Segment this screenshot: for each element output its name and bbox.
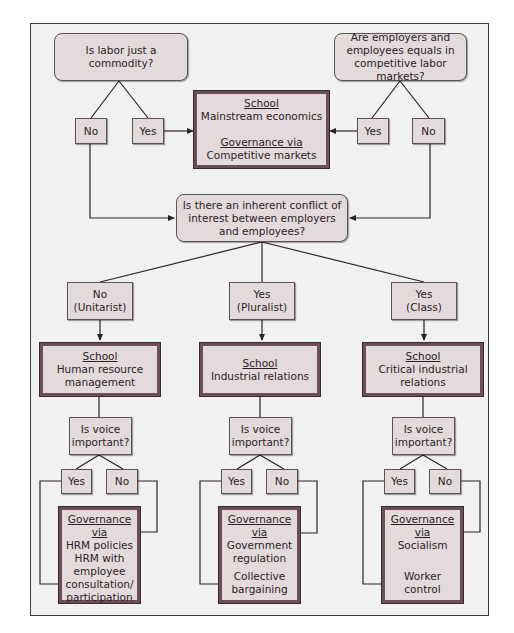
school-human-resource-management: School Human resource management xyxy=(40,343,160,396)
answer-label: Yes xyxy=(254,288,271,301)
governance-with-voice: Collective bargaining xyxy=(230,570,290,596)
school-label: School xyxy=(244,97,279,110)
commodity-yes-option: Yes xyxy=(132,118,164,144)
commodity-no-option: No xyxy=(75,118,107,144)
option-label: No xyxy=(84,125,98,138)
voice-question-critical: Is voice important? xyxy=(392,417,455,455)
voice-yes-critical: Yes xyxy=(384,469,415,494)
governance-label: Governance via xyxy=(220,136,302,149)
governance-no-voice: HRM policies xyxy=(66,539,133,552)
voice-question-hrm: Is voice important? xyxy=(69,417,132,455)
school-industrial-relations: School Industrial relations xyxy=(200,343,320,396)
answer-label: No xyxy=(93,288,107,301)
school-critical-industrial-relations: School Critical industrial relations xyxy=(363,343,483,396)
option-label: No xyxy=(421,125,435,138)
school-name: Human resource management xyxy=(43,363,157,389)
mainstream-economics-school: School Mainstream economics Governance v… xyxy=(194,91,329,168)
labor-commodity-question: Is labor just a commodity? xyxy=(54,33,188,81)
school-label: School xyxy=(406,350,441,363)
question-text: Are employers and employees equals in co… xyxy=(335,31,466,83)
inherent-conflict-question: Is there an inherent conflict of interes… xyxy=(176,194,348,242)
voice-no-critical: No xyxy=(429,469,461,494)
school-name: Industrial relations xyxy=(211,370,309,383)
option-label: Yes xyxy=(140,125,157,138)
governance-with-voice: Worker control xyxy=(398,570,448,596)
governance-label: Governance via xyxy=(222,513,297,539)
school-name: Critical industrial relations xyxy=(366,363,480,389)
governance-mode: Competitive markets xyxy=(207,149,317,162)
answer-unitarist: No (Unitarist) xyxy=(67,282,133,320)
governance-label: Governance via xyxy=(62,513,137,539)
voice-yes-hrm: Yes xyxy=(61,469,92,494)
school-name: Mainstream economics xyxy=(201,110,322,123)
answer-label: Yes xyxy=(416,288,433,301)
question-text: Is labor just a commodity? xyxy=(55,44,187,70)
governance-no-voice: Government regulation xyxy=(225,539,295,565)
governance-critical: Governance via Socialism Worker control xyxy=(382,507,463,603)
question-text: Is voice important? xyxy=(230,423,291,449)
option-label: No xyxy=(275,475,289,488)
answer-pluralist: Yes (Pluralist) xyxy=(229,282,295,320)
option-label: Yes xyxy=(365,125,382,138)
option-label: Yes xyxy=(391,475,408,488)
voice-no-hrm: No xyxy=(106,469,138,494)
option-label: Yes xyxy=(228,475,245,488)
option-label: No xyxy=(438,475,452,488)
answer-perspective: (Class) xyxy=(406,301,442,314)
governance-label: Governance via xyxy=(385,513,460,539)
governance-no-voice: Socialism xyxy=(398,539,448,552)
equals-yes-option: Yes xyxy=(357,118,389,144)
voice-yes-ir: Yes xyxy=(221,469,252,494)
school-label: School xyxy=(83,350,118,363)
answer-perspective: (Pluralist) xyxy=(237,301,287,314)
governance-ir: Governance via Government regulation Col… xyxy=(219,507,300,603)
equals-no-option: No xyxy=(412,118,445,144)
school-label: School xyxy=(243,357,278,370)
option-label: Yes xyxy=(68,475,85,488)
governance-hrm: Governance via HRM policies HRM with emp… xyxy=(59,507,140,603)
answer-perspective: (Unitarist) xyxy=(74,301,127,314)
employers-equals-question: Are employers and employees equals in co… xyxy=(334,33,467,81)
question-text: Is there an inherent conflict of interes… xyxy=(177,199,347,238)
voice-question-ir: Is voice important? xyxy=(229,417,292,455)
question-text: Is voice important? xyxy=(70,423,131,449)
option-label: No xyxy=(115,475,129,488)
question-text: Is voice important? xyxy=(393,423,454,449)
voice-no-ir: No xyxy=(266,469,298,494)
answer-class: Yes (Class) xyxy=(391,282,457,320)
governance-with-voice: HRM with employee consultation/ particip… xyxy=(65,552,135,604)
